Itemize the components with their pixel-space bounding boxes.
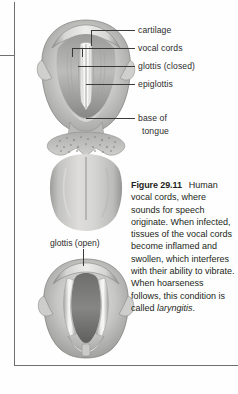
figure-caption-term: laryngitis [157,303,193,313]
page-rule-horizontal [0,55,15,56]
label-cartilage: cartilage [138,25,171,36]
figure-number: Figure 29.11 [131,180,182,190]
leader-glottis-closed [78,66,135,67]
page-border-left [14,2,15,366]
figure-caption-end: . [193,303,196,313]
label-epiglottis: epiglottis [138,79,173,90]
leader-vocal-cords-tick-left [72,48,73,57]
leader-epiglottis [86,84,135,85]
leader-base-of-tongue [86,118,135,119]
larynx-glottis-closed-illustration [36,18,136,233]
label-base-of-tongue-line2: tongue [142,126,169,137]
leader-glottis-open [83,249,84,266]
label-glottis-closed: glottis (closed) [138,61,195,72]
leader-cartilage-vertical [91,30,92,46]
leader-vocal-cords-tick-right [82,48,83,57]
label-base-of-tongue-line1: base of [138,113,167,124]
page-border-bottom [14,365,238,366]
label-glottis-open: glottis (open) [50,238,100,248]
leader-vocal-cords [83,48,135,49]
leader-cartilage [91,30,135,31]
label-vocal-cords: vocal cords [138,43,183,54]
figure-caption: Figure 29.11Human vocal cords, where sou… [131,179,235,314]
figure-caption-text: Human vocal cords, where sounds for spee… [131,180,235,313]
larynx-glottis-open-illustration [36,256,136,360]
figure-page: cartilage vocal cords glottis (closed) e… [0,0,238,394]
